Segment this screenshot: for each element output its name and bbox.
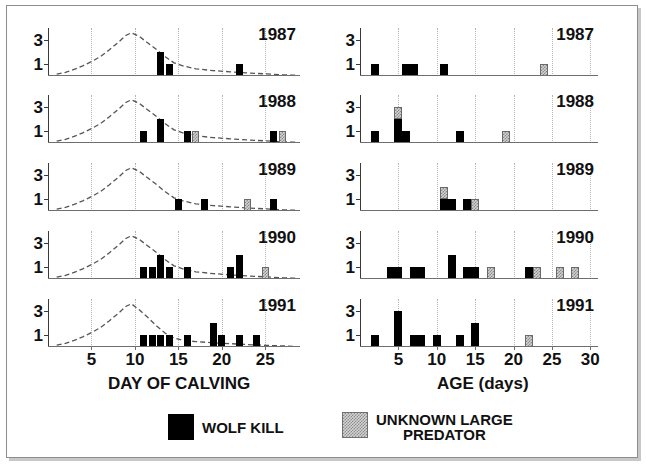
gridline-x-5 (398, 28, 400, 76)
y-tick-mark-1 (356, 199, 360, 200)
x-axis-line (360, 75, 598, 76)
x-tick-label-25: 25 (542, 351, 561, 368)
bar (236, 255, 243, 279)
subplot-right-1991: 13199151015202530 (360, 299, 598, 347)
gridline-x-15 (475, 95, 477, 143)
bar (157, 255, 164, 279)
x-axis-line (48, 346, 300, 347)
x-axis-line (48, 142, 300, 143)
y-tick-label-1: 1 (34, 123, 43, 140)
y-tick-label-1: 1 (346, 191, 355, 208)
y-tick-label-1: 1 (346, 56, 355, 73)
y-tick-mark-3 (356, 243, 360, 244)
y-tick-mark-1 (356, 335, 360, 336)
subplot-right-1987: 131987 (360, 28, 598, 76)
gridline-x-20 (514, 95, 516, 143)
bar-segment-unknown-predator (440, 187, 448, 199)
x-tick-label-25: 25 (256, 351, 275, 368)
y-axis-line (360, 28, 361, 76)
subplot-left-1991: 131991510152025 (48, 299, 300, 347)
y-axis-line (360, 299, 361, 347)
bar-segment-wolf-kill (210, 323, 217, 347)
legend-label-wolf-kill: WOLF KILL (202, 420, 284, 435)
year-label-1988: 1988 (556, 93, 594, 110)
y-tick-mark-3 (356, 311, 360, 312)
y-tick-label-1: 1 (34, 56, 43, 73)
x-tick-label-15: 15 (169, 351, 188, 368)
year-label-1989: 1989 (556, 161, 594, 178)
x-tick-label-5: 5 (394, 351, 403, 368)
y-tick-label-3: 3 (346, 235, 355, 252)
x-axis-title-right: AGE (days) (437, 374, 529, 394)
y-tick-label-3: 3 (346, 32, 355, 49)
x-tick-label-30: 30 (581, 351, 600, 368)
year-label-1988: 1988 (258, 93, 296, 110)
year-label-1991: 1991 (258, 297, 296, 314)
legend-label-line2: PREDATOR (376, 427, 513, 442)
y-tick-label-3: 3 (34, 32, 43, 49)
gridline-x-25 (552, 95, 554, 143)
x-axis-line (360, 142, 598, 143)
year-label-1991: 1991 (556, 297, 594, 314)
subplot-left-1989: 131989 (48, 163, 300, 211)
subplot-right-1990: 131990 (360, 231, 598, 279)
y-tick-mark-3 (356, 175, 360, 176)
gridline-x-10 (437, 163, 439, 211)
wolf-kill-swatch (168, 414, 194, 440)
y-tick-label-3: 3 (34, 99, 43, 116)
y-tick-label-3: 3 (34, 303, 43, 320)
x-tick-label-20: 20 (504, 351, 523, 368)
bar-segment-wolf-kill (448, 255, 456, 279)
legend-label-unknown-predator: UNKNOWN LARGE PREDATOR (376, 412, 513, 442)
bar-segment-wolf-kill (157, 52, 164, 76)
bar-segment-wolf-kill (157, 119, 164, 143)
x-tick-label-10: 10 (427, 351, 446, 368)
x-axis-line (360, 210, 598, 211)
y-tick-label-1: 1 (34, 191, 43, 208)
x-axis-line (360, 346, 598, 347)
bar-segment-wolf-kill (394, 311, 402, 347)
gridline-x-10 (437, 95, 439, 143)
gridline-x-25 (552, 28, 554, 76)
y-tick-label-1: 1 (346, 123, 355, 140)
gridline-x-20 (514, 231, 516, 279)
x-axis-line (360, 278, 598, 279)
x-axis-line (48, 278, 300, 279)
bar-segment-unknown-predator (394, 107, 402, 119)
year-label-1990: 1990 (556, 229, 594, 246)
subplot-left-1990: 131990 (48, 231, 300, 279)
gridline-x-10 (437, 231, 439, 279)
x-tick-label-20: 20 (212, 351, 231, 368)
y-tick-label-3: 3 (346, 167, 355, 184)
gridline-x-15 (475, 28, 477, 76)
gridline-x-25 (552, 163, 554, 211)
bar (394, 311, 402, 347)
bar-segment-wolf-kill (157, 255, 164, 279)
bar (448, 255, 456, 279)
y-axis-line (360, 95, 361, 143)
bar-segment-wolf-kill (236, 255, 243, 279)
y-axis-line (360, 163, 361, 211)
y-tick-label-1: 1 (34, 259, 43, 276)
y-tick-mark-1 (356, 64, 360, 65)
y-tick-mark-1 (356, 267, 360, 268)
y-tick-mark-3 (356, 40, 360, 41)
unknown-predator-swatch (342, 412, 368, 438)
y-tick-mark-3 (356, 107, 360, 108)
y-tick-label-3: 3 (346, 99, 355, 116)
gridline-x-20 (514, 299, 516, 347)
subplot-right-1989: 131989 (360, 163, 598, 211)
bar (471, 323, 479, 347)
year-label-1987: 1987 (258, 26, 296, 43)
x-axis-line (48, 75, 300, 76)
bar (157, 119, 164, 143)
bar-segment-wolf-kill (471, 323, 479, 347)
x-tick-label-5: 5 (87, 351, 96, 368)
y-axis-line (360, 231, 361, 279)
y-tick-label-1: 1 (34, 327, 43, 344)
subplot-right-1988: 131988 (360, 95, 598, 143)
gridline-x-20 (514, 28, 516, 76)
gridline-x-10 (437, 28, 439, 76)
gridline-x-25 (552, 299, 554, 347)
figure-root: 1319871319881319891319901319915101520251… (0, 0, 646, 469)
